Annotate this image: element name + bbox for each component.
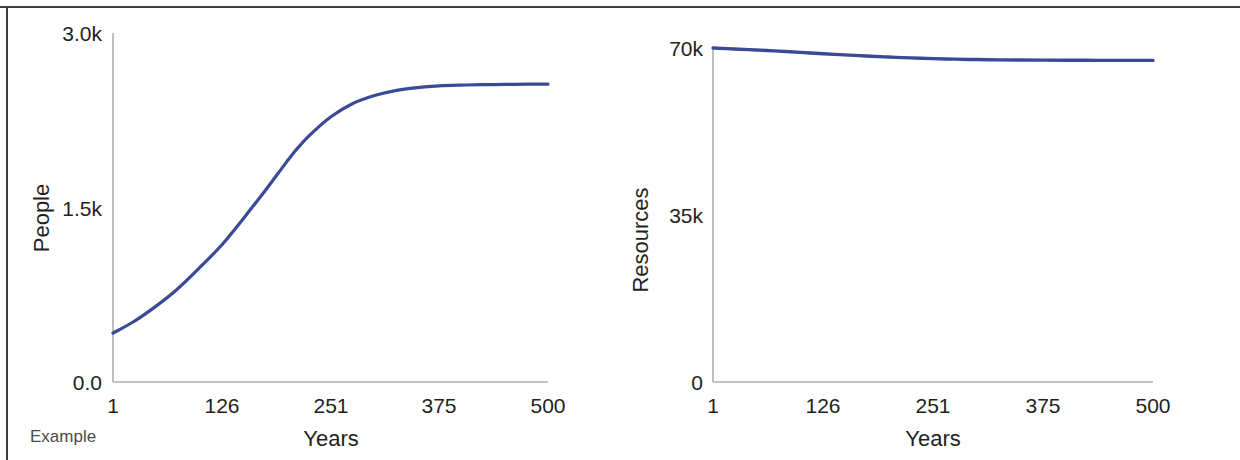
people-ytick-0: 0.0 <box>30 372 102 393</box>
resources-xtick-4: 500 <box>1135 395 1170 416</box>
figure-border-left <box>6 6 8 460</box>
figure-container: 3.0k 1.5k 0.0 1 126 251 375 500 People Y… <box>0 0 1240 460</box>
people-xtick-2: 251 <box>313 395 348 416</box>
resources-xtick-2: 251 <box>915 395 950 416</box>
people-xtick-3: 375 <box>421 395 456 416</box>
chart-panel-resources: 70k 35k 0 1 126 251 375 500 Resources Ye… <box>625 0 1225 460</box>
resources-axes <box>713 48 1153 382</box>
resources-ytick-0: 0 <box>625 372 703 393</box>
resources-plot-svg <box>625 0 1225 460</box>
resources-xtick-1: 126 <box>805 395 840 416</box>
people-xtick-4: 500 <box>530 395 565 416</box>
people-plot-svg <box>20 0 620 460</box>
figure-caption: Example <box>30 428 96 445</box>
resources-series-line <box>713 48 1153 60</box>
people-x-axis-title: Years <box>303 428 358 450</box>
resources-xtick-0: 1 <box>707 395 719 416</box>
chart-panel-people: 3.0k 1.5k 0.0 1 126 251 375 500 People Y… <box>20 0 620 460</box>
resources-y-axis-title: Resources <box>630 187 652 292</box>
people-xtick-1: 126 <box>204 395 239 416</box>
resources-xtick-3: 375 <box>1025 395 1060 416</box>
people-xtick-0: 1 <box>107 395 119 416</box>
people-series-line <box>113 84 548 333</box>
resources-ytick-2: 70k <box>625 38 703 59</box>
resources-x-axis-title: Years <box>905 428 960 450</box>
people-ytick-2: 3.0k <box>30 23 102 44</box>
people-y-axis-title: People <box>31 184 53 253</box>
